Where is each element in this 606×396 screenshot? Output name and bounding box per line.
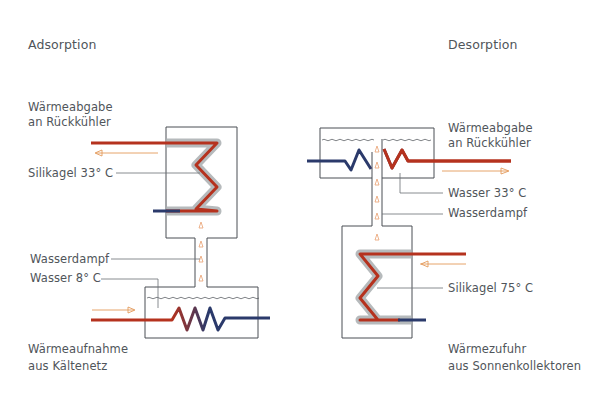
vapor-arrows xyxy=(199,222,203,281)
adsorption-diagram xyxy=(91,127,270,338)
water-surface-left xyxy=(322,139,374,141)
desorption-diagram xyxy=(307,128,511,338)
condenser-vessel xyxy=(320,128,434,178)
adsorption-water-label: Wasser 8° C xyxy=(30,271,101,286)
desorption-water-label: Wasser 33° C xyxy=(448,186,526,201)
adsorption-title: Adsorption xyxy=(28,37,96,52)
adsorption-silica-gel-label: Silikagel 33° C xyxy=(28,166,113,181)
desorption-heat-supply-line1: Wärmezufuhr xyxy=(448,342,526,357)
adsorption-heat-release-line2: an Rückkühler xyxy=(28,115,111,130)
adsorption-heat-intake-line1: Wärmeaufnahme xyxy=(28,342,128,357)
adsorption-heat-release-line1: Wärmeabgabe xyxy=(28,100,113,115)
desorption-heat-release-line2: an Rückkühler xyxy=(448,136,531,151)
water-surface xyxy=(147,297,259,299)
desorption-heat-release-line1: Wärmeabgabe xyxy=(448,121,533,136)
desorption-silica-gel-label: Silikagel 75° C xyxy=(448,281,533,296)
adsorption-heat-intake-line2: aus Kältenetz xyxy=(28,359,107,374)
vapor-arrows xyxy=(375,146,379,240)
desorption-title: Desorption xyxy=(448,37,518,52)
adsorption-water-vapor-label: Wasserdampf xyxy=(30,252,109,267)
leader-water xyxy=(400,173,443,193)
water-surface-right xyxy=(383,139,431,141)
evaporator-coil xyxy=(91,308,270,330)
desorption-heat-supply-line2: aus Sonnenkollektoren xyxy=(448,359,581,374)
desorption-water-vapor-label: Wasserdampf xyxy=(448,206,527,221)
leader-water xyxy=(101,279,158,308)
